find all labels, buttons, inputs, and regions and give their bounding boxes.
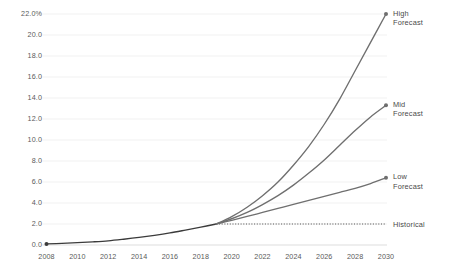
series-endpoint-marker	[384, 12, 388, 16]
series-label-historical: Historical	[393, 220, 425, 230]
series-endpoint-marker	[384, 103, 388, 107]
series-label-low: Low Forecast	[393, 172, 423, 191]
series-line	[216, 178, 386, 224]
series-label-high: High Forecast	[393, 9, 423, 28]
series-endpoint-marker	[45, 242, 49, 246]
plot-area	[0, 0, 455, 275]
gridlines	[43, 14, 388, 245]
series-line	[47, 224, 217, 244]
series-endpoint-marker	[384, 176, 388, 180]
series-markers	[45, 12, 389, 246]
series-label-mid: Mid Forecast	[393, 100, 423, 119]
series-lines	[47, 14, 387, 244]
series-line	[216, 105, 386, 224]
forecast-line-chart: 0.02.04.06.08.010.012.014.016.018.020.02…	[0, 0, 455, 275]
